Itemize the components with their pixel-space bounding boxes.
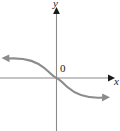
y-axis-label: y [53, 0, 58, 9]
coordinate-plane-figure: y x 0 [0, 0, 120, 131]
curve-right-arrowhead-icon [102, 94, 110, 102]
x-axis-label: x [114, 76, 119, 87]
curve-left-arrowhead-icon [2, 55, 10, 63]
origin-label: 0 [60, 63, 66, 74]
